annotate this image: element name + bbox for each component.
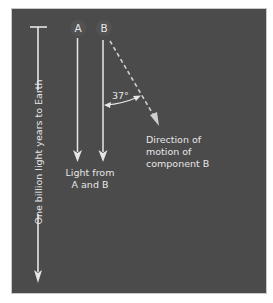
scale-bar: One billion light years to Earth <box>30 27 47 283</box>
source-b: B <box>96 20 112 36</box>
motion-direction-arrow-icon <box>150 112 159 126</box>
angle-arc-left-arrow-icon <box>104 102 111 108</box>
motion-label-line2: motion of <box>146 146 192 157</box>
angle-label: 37° <box>112 90 129 101</box>
source-b-label: B <box>100 22 107 34</box>
motion-direction-dashed-line <box>110 41 154 116</box>
light-label-line1: Light from <box>66 167 115 178</box>
motion-direction <box>110 41 159 126</box>
scale-bar-label: One billion light years to Earth <box>33 79 44 224</box>
source-a: A <box>70 20 86 36</box>
motion-label-line3: component B <box>146 158 209 169</box>
light-label-line2: A and B <box>72 179 109 190</box>
angle-indicator: 37° <box>104 90 141 108</box>
light-rays <box>73 38 108 162</box>
diagram-canvas: One billion light years to Earth A B Lig… <box>0 0 273 303</box>
source-a-label: A <box>74 22 82 34</box>
motion-label-line1: Direction of <box>146 134 202 145</box>
